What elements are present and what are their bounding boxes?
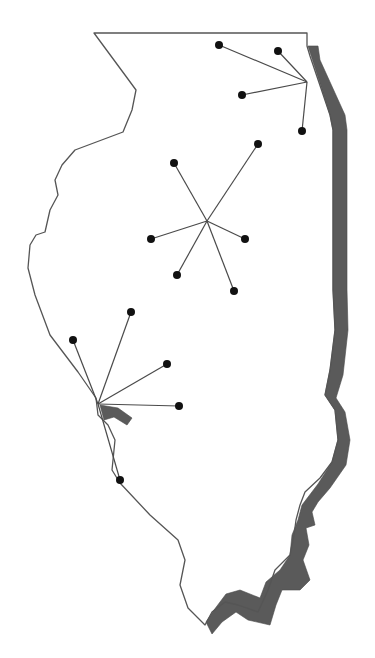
node-dot (163, 360, 171, 368)
node-dot (241, 235, 249, 243)
spoke-line (73, 340, 98, 404)
node-dot (215, 41, 223, 49)
node-dot (238, 91, 246, 99)
node-dot (175, 402, 183, 410)
node-dot (147, 235, 155, 243)
node-dot (69, 336, 77, 344)
spoke-line (98, 312, 131, 404)
node-dot (116, 476, 124, 484)
chicago-hub (215, 41, 307, 135)
spoke-line (207, 144, 258, 221)
spoke-line (278, 51, 307, 82)
node-dot (298, 127, 306, 135)
node-dot (230, 287, 238, 295)
spoke-line (242, 82, 307, 95)
node-dot (170, 159, 178, 167)
node-dot (127, 308, 135, 316)
spoke-line (98, 404, 179, 406)
node-dot (173, 271, 181, 279)
spoke-line (219, 45, 307, 82)
state-outline (28, 33, 338, 625)
illinois-hub-spoke-map (0, 0, 375, 658)
spoke-line (302, 82, 307, 131)
southwest-hub (69, 308, 183, 484)
node-dot (274, 47, 282, 55)
spoke-line (98, 364, 167, 404)
east-river-band (206, 46, 350, 634)
central-hub (147, 140, 262, 295)
spoke-line (174, 163, 207, 221)
node-dot (254, 140, 262, 148)
